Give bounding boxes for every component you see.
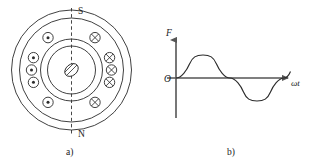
panel-b-waveform-plot: F O ωt b) <box>155 0 310 164</box>
panel-a-svg: S N a) <box>0 0 155 164</box>
coil-group-current-in <box>90 32 117 107</box>
coil-dot-2 <box>43 32 53 42</box>
coil-cross-2 <box>90 32 100 42</box>
y-axis-label: F <box>165 28 172 38</box>
panel-b-caption: b) <box>227 147 235 158</box>
coil-group-current-out <box>26 32 53 107</box>
panel-a-generator-cross-section: S N a) <box>0 0 155 164</box>
pole-label-south: S <box>78 6 83 16</box>
panel-a-caption: a) <box>66 147 73 158</box>
origin-label: O <box>164 74 171 84</box>
coil-cross-4 <box>90 97 100 107</box>
coil-cross-5 <box>104 77 114 87</box>
coil-cross-1 <box>104 52 114 62</box>
coil-dot-1 <box>28 52 38 62</box>
coil-dot-4 <box>43 97 53 107</box>
x-axis-label: ωt <box>291 78 300 88</box>
figure-root: S N a) F O ωt <box>0 0 310 164</box>
coil-cross-3 <box>106 65 116 75</box>
pole-label-north: N <box>78 129 85 139</box>
coil-dot-5 <box>28 77 38 87</box>
panel-b-svg: F O ωt b) <box>155 0 310 164</box>
coil-dot-3 <box>26 65 36 75</box>
rotor-core-hatched-ellipse <box>60 55 83 80</box>
